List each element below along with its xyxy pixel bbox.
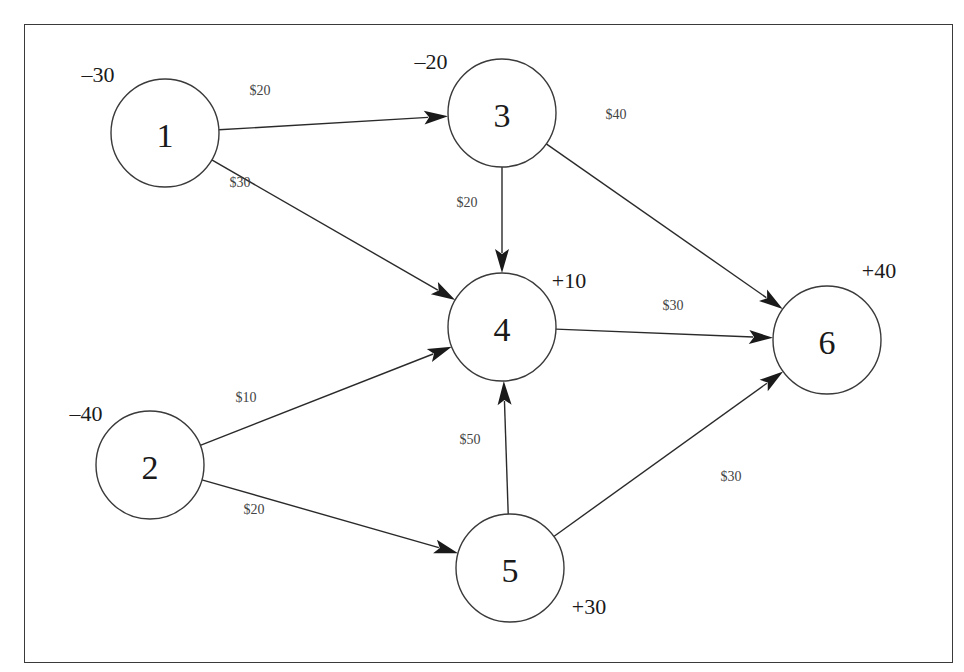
edge-1-to-3 — [219, 111, 448, 130]
node-label: 3 — [494, 97, 511, 134]
edge-cost-label: $30 — [230, 175, 251, 190]
node-1: 1 — [111, 79, 219, 187]
node-label: 2 — [142, 449, 159, 486]
node-2: 2 — [96, 411, 204, 519]
edge-2-to-5 — [202, 480, 458, 553]
edge-3-to-4 — [495, 167, 509, 273]
edge-5-to-6 — [554, 372, 783, 537]
edge-5-to-4 — [498, 381, 512, 514]
node-label: 4 — [494, 311, 511, 348]
node-5: 5 — [456, 514, 564, 622]
network-diagram: 123456 $20$30$20$40$30$10$20$50$30–30–40… — [0, 0, 964, 672]
edge-4-to-6 — [556, 329, 773, 344]
edge-cost-label: $50 — [460, 432, 481, 447]
edge-line — [554, 383, 767, 536]
node-supply-label: +30 — [572, 594, 606, 619]
node-6: 6 — [773, 286, 881, 394]
arrowhead-icon — [759, 290, 783, 309]
node-3: 3 — [448, 59, 556, 167]
node-label: 1 — [157, 117, 174, 154]
node-supply-label: +10 — [552, 268, 586, 293]
edge-line — [202, 480, 439, 548]
node-supply-label: –20 — [414, 49, 448, 74]
edge-cost-label: $20 — [457, 195, 478, 210]
edge-cost-label: $10 — [236, 390, 257, 405]
edge-cost-label: $40 — [606, 107, 627, 122]
node-supply-label: –30 — [81, 62, 115, 87]
node-label: 6 — [819, 324, 836, 361]
edge-cost-label: $20 — [244, 502, 265, 517]
node-4: 4 — [448, 273, 556, 381]
edge-cost-label: $30 — [663, 298, 684, 313]
arrowhead-icon — [760, 372, 784, 392]
node-label: 5 — [502, 552, 519, 589]
edge-line — [556, 329, 753, 337]
arrowhead-icon — [431, 282, 455, 300]
node-supply-label: +40 — [862, 258, 896, 283]
edge-line — [219, 117, 428, 129]
node-supply-label: –40 — [69, 401, 103, 426]
nodes-layer: 123456 — [96, 59, 881, 622]
edge-cost-label: $20 — [250, 83, 271, 98]
edge-cost-label: $30 — [721, 469, 742, 484]
edge-line — [504, 401, 508, 514]
